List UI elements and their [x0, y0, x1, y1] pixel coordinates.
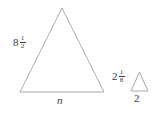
large-side-whole-number: 8 [13, 37, 19, 48]
geometry-figure-canvas [0, 0, 153, 117]
small-side-numerator: 1 [119, 69, 125, 76]
small-side-fraction: 1 8 [119, 69, 125, 84]
large-triangle-side-label: 8 1 2 [13, 35, 26, 50]
small-side-denominator: 8 [119, 77, 125, 84]
large-side-denominator: 2 [20, 43, 26, 50]
small-triangle [131, 72, 148, 91]
small-triangle-base-label: 2 [134, 93, 140, 104]
large-side-fraction: 1 2 [20, 35, 26, 50]
small-side-whole-number: 2 [112, 71, 118, 82]
small-triangle-side-label: 2 1 8 [112, 69, 125, 84]
large-triangle [20, 8, 104, 92]
large-side-numerator: 1 [20, 35, 26, 42]
large-triangle-base-label: n [57, 95, 63, 106]
